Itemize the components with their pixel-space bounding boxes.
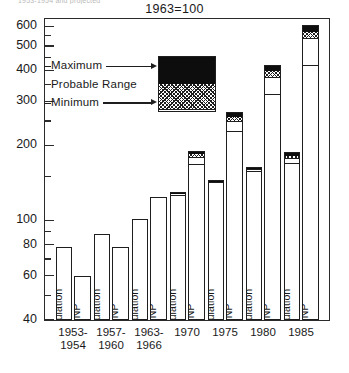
bar-population[interactable]: Population bbox=[56, 247, 73, 319]
bar-label-population: Population bbox=[56, 288, 64, 319]
segment-maximum bbox=[227, 113, 242, 117]
bar-label-population: Population bbox=[208, 288, 216, 319]
bar-gnp[interactable]: GNP bbox=[112, 247, 129, 319]
segment-maximum bbox=[209, 181, 224, 182]
legend-segment-minimum bbox=[159, 110, 215, 112]
segment-maximum bbox=[171, 193, 186, 194]
bar-label-population: Population bbox=[94, 288, 102, 319]
x-axis-label-line: 1966 bbox=[119, 339, 179, 352]
segment-maximum bbox=[189, 152, 204, 154]
segment-maximum bbox=[265, 66, 280, 71]
legend-arrow-maximum bbox=[106, 62, 157, 70]
chart-root: 1953-1954 and projected 1963=100 4060801… bbox=[0, 0, 349, 373]
legend-label-minimum: Minimum bbox=[51, 96, 99, 108]
segment-minimum bbox=[171, 194, 186, 196]
bar-label-population: Population bbox=[170, 288, 178, 319]
segment-minimum bbox=[247, 170, 262, 172]
bar-population[interactable]: Population bbox=[284, 152, 301, 320]
bar-label-population: Population bbox=[284, 288, 292, 319]
bar-label-gnp: GNP bbox=[264, 303, 272, 320]
bar-label-gnp: GNP bbox=[74, 303, 82, 320]
segment-minimum bbox=[265, 78, 280, 95]
segment-maximum bbox=[303, 26, 318, 31]
bar-label-gnp: GNP bbox=[302, 303, 310, 320]
segment-minimum bbox=[189, 158, 204, 165]
bar-gnp[interactable]: GNP bbox=[226, 112, 243, 320]
bar-gnp[interactable]: GNP bbox=[74, 276, 91, 320]
segment-maximum bbox=[285, 153, 300, 155]
legend-label-maximum: Maximum bbox=[51, 59, 102, 71]
segment-minimum bbox=[285, 159, 300, 164]
legend-label-probable: Probable Range bbox=[51, 78, 137, 90]
bar-label-gnp: GNP bbox=[188, 303, 196, 320]
bar-population[interactable]: Population bbox=[94, 234, 111, 319]
bar-gnp[interactable]: GNP bbox=[150, 197, 167, 320]
segment-maximum bbox=[247, 168, 262, 169]
segment-minimum bbox=[227, 122, 242, 132]
bar-label-gnp: GNP bbox=[150, 303, 158, 320]
legend-segment-probable bbox=[159, 84, 215, 110]
bar-label-gnp: GNP bbox=[112, 303, 120, 320]
legend-arrow-minimum bbox=[103, 99, 157, 107]
x-axis-label: 1985 bbox=[271, 326, 331, 339]
bar-gnp[interactable]: GNP bbox=[188, 151, 205, 320]
bar-population[interactable]: Population bbox=[170, 192, 187, 320]
bar-gnp[interactable]: GNP bbox=[264, 65, 281, 320]
bar-label-gnp: GNP bbox=[226, 303, 234, 320]
bar-population[interactable]: Population bbox=[132, 219, 149, 319]
bar-label-population: Population bbox=[132, 288, 140, 319]
bar-label-population: Population bbox=[246, 288, 254, 319]
bar-population[interactable]: Population bbox=[246, 167, 263, 319]
legend-segment-maximum bbox=[159, 57, 215, 84]
x-axis-label-line: 1985 bbox=[271, 326, 331, 339]
segment-minimum bbox=[303, 39, 318, 66]
bar-population[interactable]: Population bbox=[208, 180, 225, 320]
legend-key-box bbox=[158, 56, 216, 112]
bar-gnp[interactable]: GNP bbox=[302, 25, 319, 319]
